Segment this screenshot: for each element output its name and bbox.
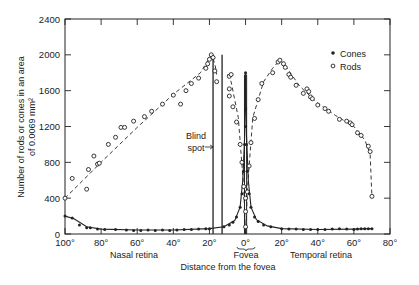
rods-point <box>161 102 165 106</box>
rods-point <box>238 142 242 146</box>
rods-point <box>244 210 248 214</box>
cones-point <box>242 170 245 173</box>
x-tick-label: 20° <box>202 237 217 248</box>
cones-point <box>190 228 193 231</box>
cones-point <box>287 228 290 231</box>
cones-point <box>345 228 348 231</box>
fovea-label: Fovea <box>233 250 258 260</box>
cones-point <box>239 206 242 209</box>
x-tick-label: 100° <box>55 237 75 248</box>
rods-point <box>260 82 264 86</box>
rods-point <box>370 194 374 198</box>
chart: 04008001200160020002400 100°80°60°40°20°… <box>0 0 419 285</box>
cones-point <box>295 228 298 231</box>
cones-point <box>280 227 283 230</box>
blind-spot-label-line2: spot <box>187 143 205 153</box>
cones-point <box>235 215 238 218</box>
x-tick-label: 60° <box>347 237 362 248</box>
rods-point <box>368 150 372 154</box>
legend: Cones Rods <box>331 49 366 72</box>
legend-rods-marker <box>331 64 335 68</box>
rods-curve <box>65 55 217 198</box>
rods-point <box>247 164 251 168</box>
rods-point <box>249 141 253 145</box>
y-tick-label: 2000 <box>39 49 60 60</box>
rods-point <box>142 115 146 119</box>
rods-point <box>213 69 217 73</box>
rods-point <box>189 82 193 86</box>
x-tick-label: 0° <box>241 237 250 248</box>
rods-point <box>327 109 331 113</box>
y-axis: 04008001200160020002400 <box>39 14 390 240</box>
y-tick-label: 800 <box>44 157 60 168</box>
cones-point <box>228 224 231 227</box>
rods-point <box>301 91 305 95</box>
cones-point <box>245 143 248 146</box>
cones-point <box>183 228 186 231</box>
rods-point <box>271 71 275 75</box>
rods-point <box>289 75 293 79</box>
cones-point <box>338 227 341 230</box>
rods-point <box>240 160 244 164</box>
cones-point <box>89 226 92 229</box>
rods-point <box>256 98 260 102</box>
rods-point <box>356 131 360 135</box>
x-tick-label: 40° <box>311 237 326 248</box>
nasal-retina-label: Nasal retina <box>110 250 158 260</box>
rods-point <box>70 176 74 180</box>
cones-point <box>103 228 106 231</box>
cones-point <box>253 215 256 218</box>
cones-point <box>257 220 260 223</box>
cones-point <box>231 221 234 224</box>
cones-point <box>175 228 178 231</box>
rods-point <box>206 62 210 66</box>
rods-point <box>242 185 246 189</box>
x-tick-label: 80° <box>94 237 109 248</box>
rods-point <box>307 90 311 94</box>
rods-point <box>294 83 298 87</box>
cones-point <box>96 228 99 231</box>
legend-rods-label: Rods <box>340 62 362 72</box>
x-tick-label: 40° <box>166 237 181 248</box>
cones-point <box>356 228 359 231</box>
temporal-retina-label: Temporal retina <box>290 250 352 260</box>
y-axis-label-line1: Number of rods or cones in an area <box>16 56 26 198</box>
rods-point <box>310 97 314 101</box>
series-points <box>63 53 374 232</box>
cones-point <box>204 227 207 230</box>
cones-point <box>125 228 128 231</box>
rods-point <box>63 196 67 200</box>
cones-point <box>324 228 327 231</box>
y-tick-label: 1200 <box>39 121 60 132</box>
cones-point <box>78 224 81 227</box>
cones-point <box>370 227 373 230</box>
rods-point <box>114 135 118 139</box>
rods-point <box>215 80 219 84</box>
rods-point <box>366 144 370 148</box>
cones-point <box>246 170 249 173</box>
cones-point <box>139 229 142 232</box>
rods-point <box>323 107 327 111</box>
y-tick-label: 400 <box>44 193 60 204</box>
cones-point <box>302 228 305 231</box>
rods-point <box>337 117 341 121</box>
cones-point <box>132 229 135 232</box>
rods-point <box>229 73 233 77</box>
rods-point <box>227 87 231 91</box>
rods-point <box>316 103 320 107</box>
rods-point <box>97 161 101 165</box>
rods-point <box>350 123 354 127</box>
cones-point <box>154 229 157 232</box>
cones-point <box>197 228 200 231</box>
x-tick-label: 80° <box>383 237 398 248</box>
cones-point <box>222 225 225 228</box>
cones-point <box>331 228 334 231</box>
y-axis-label-line2: of 0.0069 mm² <box>27 98 37 156</box>
rods-point <box>86 168 90 172</box>
legend-cones-marker <box>331 51 335 55</box>
rods-point <box>244 225 248 229</box>
cones-point <box>309 228 312 231</box>
rods-point <box>132 119 136 123</box>
cones-point <box>262 224 265 227</box>
cones-point <box>248 192 251 195</box>
